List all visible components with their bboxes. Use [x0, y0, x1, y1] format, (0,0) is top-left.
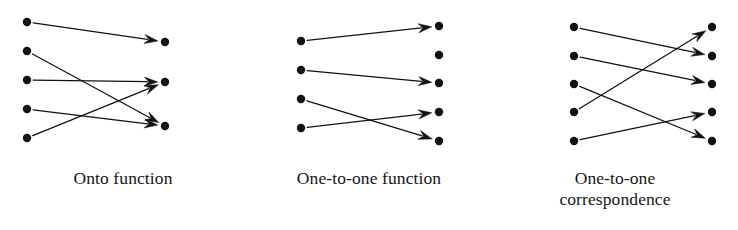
domain-dot-L1 — [570, 23, 578, 31]
domain-dot-L2 — [570, 52, 578, 60]
arrowhead — [692, 31, 706, 42]
one-to-one-function-caption: One-to-one function — [246, 168, 492, 189]
one-to-one-function-svg — [246, 0, 492, 165]
arrow-shaft — [307, 28, 421, 40]
codomain-dot-R2 — [708, 52, 716, 60]
arrow-L5-to-R2 — [33, 85, 159, 136]
caption-line: One-to-one function — [246, 168, 492, 189]
codomain-dot-R4 — [435, 108, 443, 116]
one-to-one-correspondence-diagram — [492, 0, 738, 165]
codomain-dot-R3 — [161, 122, 169, 130]
domain-dot-L3 — [23, 76, 31, 84]
codomain-dot-R4 — [708, 108, 716, 116]
arrow-shaft — [33, 23, 147, 40]
domain-dot-L1 — [297, 37, 305, 45]
onto-function-svg — [0, 0, 246, 165]
codomain-dot-R2 — [161, 78, 169, 86]
caption-line: correspondence — [492, 189, 738, 210]
arrow-L1-to-R1 — [307, 24, 432, 41]
one-to-one-function-diagram — [246, 0, 492, 165]
arrow-L5-to-R4 — [580, 112, 705, 140]
function-types-figure: Onto function One-to-one function One-to… — [0, 0, 738, 230]
panel-one-to-one-function: One-to-one function — [246, 0, 492, 230]
arrow-shaft — [307, 114, 421, 127]
arrow-shaft — [33, 80, 147, 82]
codomain-dot-R1 — [708, 23, 716, 31]
arrow-L3-to-R2 — [33, 77, 158, 86]
caption-line: Onto function — [0, 168, 246, 189]
domain-dot-L1 — [23, 18, 31, 26]
arrow-L2-to-R3 — [580, 57, 705, 84]
one-to-one-correspondence-caption: One-to-one correspondence — [492, 168, 738, 210]
domain-dot-L3 — [297, 95, 305, 103]
codomain-dot-R5 — [435, 137, 443, 145]
codomain-dot-R3 — [435, 79, 443, 87]
arrow-L3-to-R5 — [580, 86, 706, 138]
codomain-dot-R1 — [161, 38, 169, 46]
domain-dot-L5 — [23, 134, 31, 142]
domain-dot-L4 — [570, 108, 578, 116]
arrow-L4-to-R1 — [579, 31, 706, 109]
panel-onto-function: Onto function — [0, 0, 246, 230]
arrow-L1-to-R1 — [33, 23, 158, 44]
arrow-shaft — [579, 36, 697, 108]
domain-dot-L4 — [297, 124, 305, 132]
arrow-L2-to-R3 — [307, 71, 432, 86]
domain-dot-L2 — [297, 66, 305, 74]
caption-line: One-to-one — [492, 168, 738, 189]
arrow-L4-to-R4 — [307, 110, 432, 127]
arrow-shaft — [307, 71, 421, 82]
domain-dot-L5 — [570, 137, 578, 145]
onto-function-caption: Onto function — [0, 168, 246, 189]
arrow-shaft — [32, 54, 149, 118]
one-to-one-correspondence-svg — [492, 0, 738, 165]
domain-dot-L4 — [23, 105, 31, 113]
codomain-dot-R1 — [435, 22, 443, 30]
panel-one-to-one-correspondence: One-to-one correspondence — [492, 0, 738, 230]
codomain-dot-R3 — [708, 80, 716, 88]
codomain-dot-R5 — [708, 137, 716, 145]
arrow-shaft — [580, 116, 695, 140]
domain-dot-L2 — [23, 47, 31, 55]
codomain-dot-R2 — [435, 51, 443, 59]
onto-function-diagram — [0, 0, 246, 165]
arrow-shaft — [307, 101, 422, 136]
domain-dot-L3 — [570, 80, 578, 88]
arrow-shaft — [580, 57, 695, 80]
